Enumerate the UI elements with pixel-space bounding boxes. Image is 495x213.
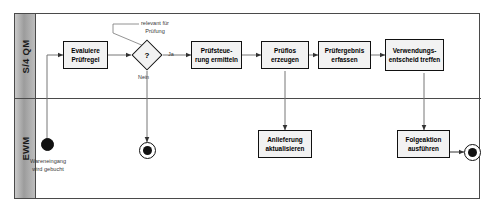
annotation-line1: relevant für xyxy=(141,20,169,26)
task-line1: Prüfergebnis xyxy=(325,46,364,55)
task-folgeaktion-ausfuehren[interactable]: Folgeaktion ausführen xyxy=(397,130,450,158)
task-line1: Evaluiere xyxy=(71,46,99,55)
task-pruefergebnis-erfassen[interactable]: Prüfergebnis erfassen xyxy=(318,41,371,69)
task-line2: erzeugen xyxy=(271,55,299,64)
task-anlieferung-aktualisieren[interactable]: Anlieferung aktualisieren xyxy=(258,130,312,158)
event-start-label: Wareneingang wird gebucht xyxy=(8,157,88,174)
task-line1: Prüfsteue- xyxy=(195,46,238,55)
task-line2: aktualisieren xyxy=(265,144,304,153)
task-pruefl0s-erzeugen[interactable]: Prüflos erzeugen xyxy=(261,41,309,69)
task-line2: ausführen xyxy=(406,144,442,153)
task-verwendungsentscheid-treffen[interactable]: Verwendungs- entscheid treffen xyxy=(385,39,444,71)
task-line1: Prüflos xyxy=(271,46,299,55)
task-pruefsteuerung-ermitteln[interactable]: Prüfsteue- rung ermitteln xyxy=(191,41,242,69)
lane-header-ewm: EWM xyxy=(15,98,36,198)
task-line2: erfassen xyxy=(325,55,364,64)
task-line2: Prüfregel xyxy=(71,55,99,64)
annotation-relevant-fuer-pruefung: relevant für Prüfung xyxy=(141,19,169,36)
task-line2: entscheid treffen xyxy=(389,55,441,64)
gateway-symbol: ? xyxy=(131,39,163,71)
flow-label-ja: Ja xyxy=(168,51,174,57)
task-line1: Verwendungs- xyxy=(389,46,441,55)
event-start-label-line1: Wareneingang xyxy=(30,158,66,164)
flow-label-nein: Nein xyxy=(138,74,149,80)
event-end-folgeaktion[interactable] xyxy=(464,144,481,161)
gateway-pruefung[interactable]: ? xyxy=(131,39,163,71)
task-evaluiere-pruefregel[interactable]: Evaluiere Prüfregel xyxy=(63,41,108,69)
event-end-nein[interactable] xyxy=(139,142,156,159)
lane-divider xyxy=(15,98,481,99)
task-line1: Folgeaktion xyxy=(406,135,442,144)
event-start-wareneingang[interactable] xyxy=(41,138,54,151)
diagram-canvas: S/4 QM EWM xyxy=(0,0,495,213)
task-line2: rung ermitteln xyxy=(195,55,238,64)
task-line1: Anlieferung xyxy=(265,135,304,144)
lane-label-s4-qm: S/4 QM xyxy=(20,39,31,73)
annotation-line2: Prüfung xyxy=(145,28,165,34)
lane-header-s4-qm: S/4 QM xyxy=(15,14,36,98)
event-start-label-line2: wird gebucht xyxy=(32,166,64,172)
